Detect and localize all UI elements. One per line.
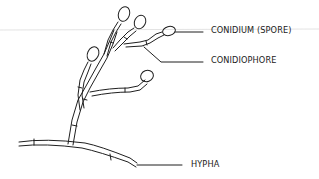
left-branch-drawing <box>78 45 101 110</box>
conidiophore-label: CONIDIOPHORE <box>211 56 276 64</box>
upper-branches-drawing <box>104 5 176 56</box>
hypha-label: HYPHA <box>191 160 219 168</box>
conidiophore-diagram: CONIDIUM (SPORE) CONIDIOPHORE HYPHA <box>0 0 319 179</box>
lower-right-branch-drawing <box>90 69 155 96</box>
conidium-label: CONIDIUM (SPORE) <box>211 26 292 34</box>
hypha-drawing <box>19 139 137 167</box>
leader-lines <box>137 32 203 165</box>
